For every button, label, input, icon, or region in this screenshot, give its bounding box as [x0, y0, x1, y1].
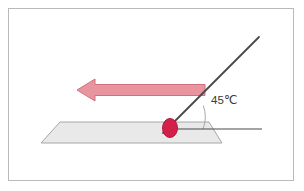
horizontal-plane	[41, 122, 222, 143]
contact-point-marker	[163, 119, 178, 138]
angle-label: 45℃	[211, 94, 237, 106]
figure-container: 45℃	[0, 0, 304, 191]
force-arrow	[77, 79, 205, 101]
diagram-canvas: 45℃	[0, 0, 304, 191]
